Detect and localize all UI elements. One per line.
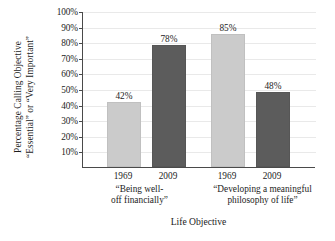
- tick-mark: [79, 74, 83, 75]
- y-axis-tick-label: 30%: [38, 117, 78, 126]
- y-axis-title-line-2: “Essential” or “Very Important”: [25, 36, 37, 158]
- gridline: [83, 28, 316, 29]
- group-caption-line-1: “Being well-: [83, 184, 196, 195]
- tick-mark: [79, 28, 83, 29]
- y-axis-tick-label: 50%: [38, 86, 78, 95]
- bar-value-label: 48%: [256, 81, 290, 91]
- y-axis-tick-label: 90%: [38, 24, 78, 33]
- x-axis-label-1969-group-1: 1969: [106, 171, 140, 181]
- group-caption-being-well-off: “Being well- off financially”: [83, 184, 196, 206]
- bar-value-label: 78%: [152, 34, 186, 44]
- bar-value-label: 42%: [107, 91, 141, 101]
- bar-1969-philosophy-of-life[interactable]: [211, 34, 245, 167]
- tick-mark: [79, 59, 83, 60]
- y-axis-tick-label: 70%: [38, 55, 78, 64]
- x-axis-label-2009-group-2: 2009: [255, 171, 289, 181]
- bar-2009-being-well-off[interactable]: [152, 45, 186, 167]
- tick-mark: [79, 90, 83, 91]
- y-axis-tick-label: 10%: [38, 148, 78, 157]
- tick-mark: [79, 152, 83, 153]
- group-caption-line-2: off financially”: [83, 195, 196, 206]
- gridline: [83, 59, 316, 60]
- y-axis-tick-labels: 100% 90% 80% 70% 60% 50% 40% 30% 20% 10%: [38, 0, 78, 180]
- gridline: [83, 43, 316, 44]
- x-axis-title: Life Objective: [82, 216, 315, 227]
- gridline: [83, 74, 316, 75]
- y-axis-tick-label: 60%: [38, 70, 78, 79]
- gridline: [83, 12, 316, 13]
- group-caption-line-1: “Developing a meaningful: [192, 184, 333, 195]
- x-axis-label-2009-group-1: 2009: [151, 171, 185, 181]
- bar-value-label: 85%: [211, 23, 245, 33]
- y-axis-title-line-1: Percentage Calling Objective: [13, 41, 25, 153]
- tick-mark: [79, 121, 83, 122]
- tick-mark: [79, 12, 83, 13]
- y-axis-tick-label: 20%: [38, 133, 78, 142]
- y-axis-tick-label: 80%: [38, 39, 78, 48]
- tick-mark: [79, 106, 83, 107]
- tick-mark: [79, 43, 83, 44]
- y-axis-tick-label: 100%: [38, 8, 78, 17]
- group-caption-philosophy-of-life: “Developing a meaningful philosophy of l…: [192, 184, 333, 206]
- group-caption-line-2: philosophy of life”: [192, 195, 333, 206]
- x-axis-label-1969-group-2: 1969: [210, 171, 244, 181]
- tick-mark: [79, 137, 83, 138]
- bar-chart: Percentage Calling Objective “Essential”…: [0, 0, 335, 241]
- bar-1969-being-well-off[interactable]: [107, 102, 141, 168]
- plot-area: 42% 78% 85% 48%: [82, 12, 315, 168]
- y-axis-tick-label: 40%: [38, 102, 78, 111]
- bar-2009-philosophy-of-life[interactable]: [256, 92, 290, 167]
- y-axis-title: Percentage Calling Objective “Essential”…: [8, 11, 42, 183]
